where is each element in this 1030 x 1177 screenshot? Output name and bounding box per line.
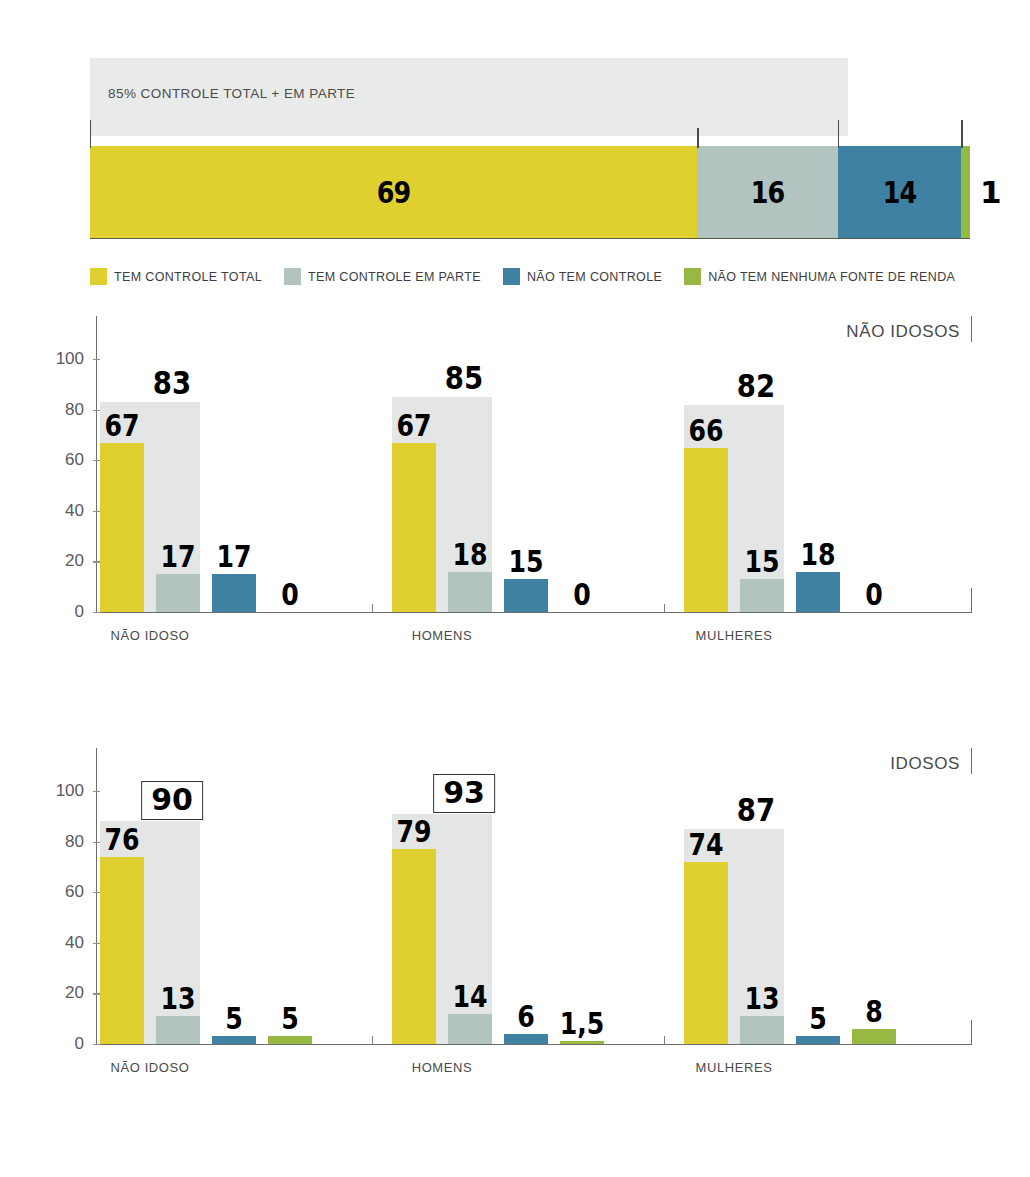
stacked-segment-value: 16 xyxy=(751,174,785,210)
total-value-label: 87 xyxy=(737,794,775,826)
y-tick-mark xyxy=(93,359,100,360)
bar: 15 xyxy=(504,579,548,612)
y-tick-mark xyxy=(93,410,100,411)
bar-value-label: 15 xyxy=(508,547,543,577)
segment-divider-tick xyxy=(697,128,698,148)
legend-label: NÃO TEM CONTROLE xyxy=(527,270,662,284)
bar-group: 856718150HOMENS xyxy=(392,316,684,612)
bar-value-label: 0 xyxy=(865,580,883,610)
bar-value-label: 8 xyxy=(865,997,883,1027)
bar-group: 90761355NÃO IDOSO xyxy=(100,748,392,1044)
y-tick-label: 60 xyxy=(65,882,96,902)
chart-panel: NÃO IDOSOS020406080100836717170NÃO IDOSO… xyxy=(0,316,1030,682)
group-label: NÃO IDOSO xyxy=(110,1060,189,1075)
bar: 17 xyxy=(212,574,256,612)
bar-value-label: 18 xyxy=(800,540,835,570)
total-value-label: 82 xyxy=(737,370,775,402)
summary-stacked-bar: 85% CONTROLE TOTAL + EM PARTE 6916141 xyxy=(90,58,970,238)
group-separator-tick xyxy=(372,604,373,612)
y-tick-mark xyxy=(93,612,100,613)
x-axis xyxy=(96,1044,972,1045)
bar-value-label: 5 xyxy=(225,1004,243,1034)
stacked-segment-value: 1 xyxy=(980,174,1001,210)
bar: 76 xyxy=(100,857,144,1044)
bar-value-label: 17 xyxy=(216,542,251,572)
bar: 13 xyxy=(156,1016,200,1044)
bar-value-label: 14 xyxy=(452,982,487,1012)
group-label: NÃO IDOSO xyxy=(110,628,189,643)
bar: 1,5 xyxy=(560,1041,604,1044)
bar: 15 xyxy=(740,579,784,612)
stacked-segment: 14 xyxy=(838,146,961,238)
bar: 14 xyxy=(448,1014,492,1044)
summary-header-note: 85% CONTROLE TOTAL + EM PARTE xyxy=(108,86,355,101)
legend-label: TEM CONTROLE TOTAL xyxy=(114,270,262,284)
group-label: MULHERES xyxy=(695,1060,772,1075)
total-value-label: 90 xyxy=(141,781,203,820)
y-tick-mark xyxy=(93,460,100,461)
group-label: MULHERES xyxy=(695,628,772,643)
bar-value-label: 13 xyxy=(744,984,779,1014)
group-separator-tick xyxy=(664,604,665,612)
y-tick-label: 100 xyxy=(56,349,96,369)
y-tick-label: 40 xyxy=(65,501,96,521)
y-tick-label: 20 xyxy=(65,551,96,571)
legend-swatch xyxy=(503,268,520,285)
x-axis xyxy=(96,612,972,613)
bar-value-label: 0 xyxy=(281,580,299,610)
bar-value-label: 67 xyxy=(396,411,431,441)
bar-end-tick xyxy=(961,120,962,148)
group-label: HOMENS xyxy=(412,628,473,643)
bar-value-label: 5 xyxy=(281,1004,299,1034)
legend-item: TEM CONTROLE EM PARTE xyxy=(284,268,481,285)
total-value-label: 83 xyxy=(153,367,191,399)
bar-value-label: 18 xyxy=(452,540,487,570)
chart-panel: IDOSOS02040608010090761355NÃO IDOSO93791… xyxy=(0,748,1030,1114)
bar: 18 xyxy=(448,572,492,612)
bar: 13 xyxy=(740,1016,784,1044)
bar: 67 xyxy=(100,443,144,613)
bar: 18 xyxy=(796,572,840,612)
bar-group: 93791461,5HOMENS xyxy=(392,748,684,1044)
y-tick-label: 100 xyxy=(56,781,96,801)
legend: TEM CONTROLE TOTALTEM CONTROLE EM PARTEN… xyxy=(90,268,964,285)
bar: 17 xyxy=(156,574,200,612)
bar-value-label: 76 xyxy=(104,825,139,855)
bar-value-label: 74 xyxy=(688,830,723,860)
y-tick-mark xyxy=(93,561,100,562)
group-separator-tick xyxy=(372,1036,373,1044)
segment-divider-tick xyxy=(838,120,839,148)
legend-swatch xyxy=(284,268,301,285)
stacked-segment: 16 xyxy=(697,146,838,238)
chart-page: 85% CONTROLE TOTAL + EM PARTE 6916141 TE… xyxy=(0,0,1030,1177)
legend-label: NÃO TEM NENHUMA FONTE DE RENDA xyxy=(708,270,955,284)
y-tick-mark xyxy=(93,892,100,893)
group-separator-tick xyxy=(664,1036,665,1044)
stacked-segment-value-outside: 1 xyxy=(980,174,1001,210)
bar-value-label: 13 xyxy=(160,984,195,1014)
bar: 66 xyxy=(684,448,728,612)
y-tick-mark xyxy=(93,993,100,994)
bar-value-label: 67 xyxy=(104,411,139,441)
bar: 67 xyxy=(392,443,436,613)
y-axis xyxy=(96,316,97,612)
bar-value-label: 79 xyxy=(396,817,431,847)
stacked-segment-value: 14 xyxy=(883,174,917,210)
bar: 5 xyxy=(268,1036,312,1044)
y-tick-label: 80 xyxy=(65,832,96,852)
group-label: HOMENS xyxy=(412,1060,473,1075)
bar-start-tick xyxy=(90,120,91,148)
bar: 5 xyxy=(796,1036,840,1044)
legend-item: TEM CONTROLE TOTAL xyxy=(90,268,262,285)
y-tick-mark xyxy=(93,511,100,512)
total-value-label: 85 xyxy=(445,362,483,394)
bar: 74 xyxy=(684,862,728,1044)
total-value-label: 93 xyxy=(433,774,495,813)
plot-area: 02040608010090761355NÃO IDOSO93791461,5H… xyxy=(96,748,972,1044)
stacked-segment-value: 69 xyxy=(377,174,411,210)
y-tick-mark xyxy=(93,1044,100,1045)
stacked-segment: 69 xyxy=(90,146,697,238)
y-tick-mark xyxy=(93,842,100,843)
legend-swatch xyxy=(90,268,107,285)
bar-value-label: 6 xyxy=(517,1002,535,1032)
